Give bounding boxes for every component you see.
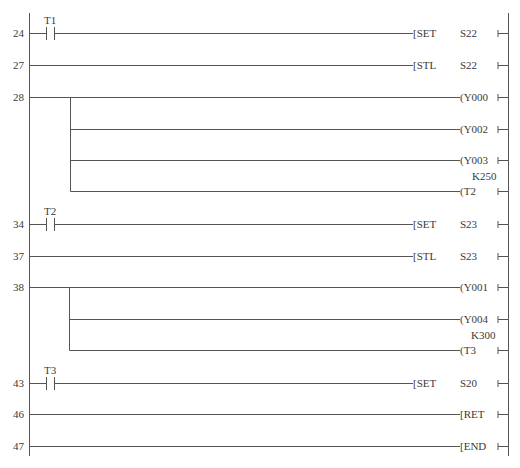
operand: S22 <box>460 27 477 39</box>
step-number: 38 <box>0 281 24 293</box>
step-number: 24 <box>0 27 24 39</box>
operand: S22 <box>460 59 477 71</box>
output-coil: (Y001 <box>460 281 488 293</box>
contact-label: T3 <box>44 364 56 376</box>
operand: S23 <box>460 218 477 230</box>
rung-28 <box>30 94 509 195</box>
timer-coil: (T2 <box>460 185 476 197</box>
timer-constant: K250 <box>472 170 496 182</box>
step-number: 37 <box>0 250 24 262</box>
contact-label: T1 <box>44 14 56 26</box>
timer-constant: K300 <box>471 329 495 341</box>
ladder-diagram <box>0 0 520 468</box>
step-number: 27 <box>0 59 24 71</box>
operand: S20 <box>460 377 477 389</box>
step-number: 28 <box>0 91 24 103</box>
output-coil: (Y000 <box>460 91 488 103</box>
instruction-set: [SET <box>413 218 436 230</box>
timer-coil: (T3 <box>460 344 476 356</box>
instruction-set: [SET <box>413 377 436 389</box>
instruction-stl: [STL <box>413 250 436 262</box>
rung-38 <box>30 284 509 354</box>
contact-label: T2 <box>44 205 56 217</box>
output-coil: (Y003 <box>460 154 488 166</box>
output-coil: (Y004 <box>460 313 488 325</box>
output-coil: (Y002 <box>460 123 488 135</box>
rung-47 <box>30 443 509 450</box>
instruction-ret: [RET <box>460 408 484 420</box>
step-number: 46 <box>0 408 24 420</box>
step-number: 47 <box>0 440 24 452</box>
operand: S23 <box>460 250 477 262</box>
instruction-set: [SET <box>413 27 436 39</box>
step-number: 43 <box>0 377 24 389</box>
instruction-end: [END <box>460 440 486 452</box>
instruction-stl: [STL <box>413 59 436 71</box>
rung-46 <box>30 411 509 418</box>
step-number: 34 <box>0 218 24 230</box>
